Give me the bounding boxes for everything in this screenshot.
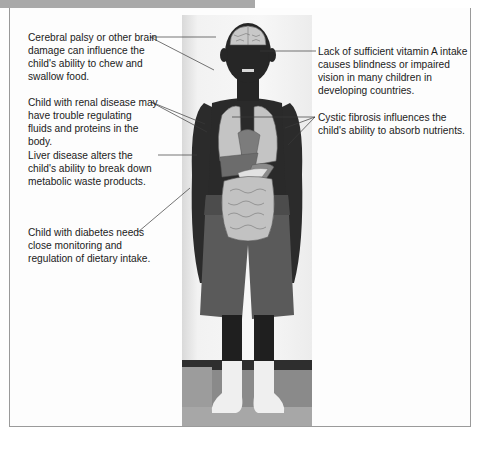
child-photo	[182, 15, 312, 426]
child-figure-illustration	[182, 15, 312, 426]
label-renal-disease: Child with renal disease may have troubl…	[28, 96, 158, 148]
label-vitamin-a: Lack of sufficient vitamin A intake caus…	[318, 45, 468, 97]
label-liver-disease: Liver disease alters the child's ability…	[28, 149, 163, 188]
header-bar	[0, 0, 255, 8]
label-cystic-fibrosis: Cystic fibrosis influences the child's a…	[318, 111, 473, 137]
label-brain-damage: Cerebral palsy or other brain damage can…	[28, 31, 158, 83]
label-diabetes: Child with diabetes needs close monitori…	[28, 226, 163, 265]
